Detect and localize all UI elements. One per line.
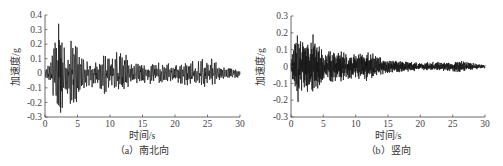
y-tick-label: 0.1	[30, 54, 42, 64]
x-tick-label: 15	[138, 119, 148, 129]
x-tick-label: 10	[105, 119, 115, 129]
y-tick-label: -0.3	[27, 112, 42, 122]
figure: 0510152025300.40.30.20.10-0.1-0.2-0.3 05…	[0, 0, 503, 166]
x-tick-label: 10	[351, 119, 361, 129]
y-tick-label: 0.2	[276, 28, 288, 38]
caption-a: （a）南北向	[115, 144, 169, 156]
y-tick-label: -0.1	[273, 79, 288, 89]
signal-line	[45, 24, 240, 113]
x-axis-label-b: 时间/s	[375, 129, 402, 141]
y-tick-label: -0.2	[273, 95, 288, 105]
x-tick-label: 25	[203, 119, 213, 129]
y-tick-label: -0.3	[273, 112, 288, 122]
x-tick-label: 30	[480, 119, 490, 129]
x-tick-label: 0	[289, 119, 294, 129]
signal-line	[291, 35, 485, 102]
y-tick-label: -0.2	[27, 98, 42, 108]
y-tick-label: 0	[283, 62, 288, 72]
x-axis-label-a: 时间/s	[129, 129, 156, 141]
x-tick-label: 15	[383, 119, 393, 129]
y-tick-label: 0.1	[276, 45, 288, 55]
y-tick-label: 0	[37, 68, 42, 78]
x-tick-label: 5	[75, 119, 80, 129]
x-tick-label: 30	[235, 119, 245, 129]
caption-b: （b）竖向	[366, 144, 411, 156]
y-axis-label-b: 加速度/g	[254, 48, 266, 86]
y-tick-label: 0.3	[30, 25, 42, 35]
chart-panel-north-south: 0510152025300.40.30.20.10-0.1-0.2-0.3	[27, 10, 245, 129]
y-axis-label-a: 加速度/g	[9, 48, 21, 86]
chart-panel-vertical: 0510152025300.30.20.10-0.1-0.2-0.3	[273, 11, 490, 129]
x-tick-label: 20	[170, 119, 180, 129]
y-tick-label: 0.2	[30, 39, 42, 49]
x-tick-label: 5	[321, 119, 326, 129]
x-tick-label: 20	[416, 119, 426, 129]
x-tick-label: 25	[448, 119, 458, 129]
y-tick-label: 0.4	[30, 10, 42, 20]
y-tick-label: -0.1	[27, 83, 42, 93]
y-tick-label: 0.3	[276, 11, 288, 21]
x-tick-label: 0	[43, 119, 48, 129]
